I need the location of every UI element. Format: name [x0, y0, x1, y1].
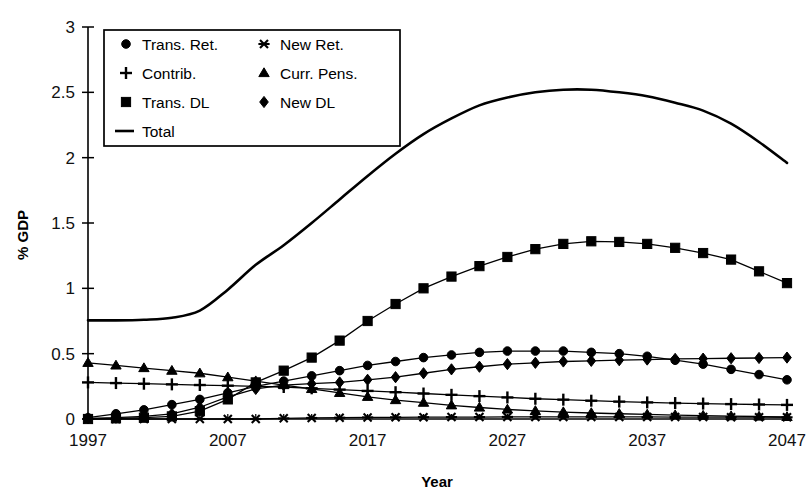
line-chart: 00.511.522.53199720072017202720372047 % …: [0, 0, 806, 498]
data-point-circle: [727, 365, 736, 374]
data-point-square: [503, 252, 512, 261]
data-point-circle: [122, 40, 131, 49]
data-point-square: [419, 284, 428, 293]
data-point-circle: [531, 347, 540, 356]
data-point-square: [363, 316, 372, 325]
y-axis-tick-label: 2: [66, 149, 75, 168]
data-point-circle: [447, 351, 456, 360]
data-point-square: [587, 237, 596, 246]
data-point-square: [391, 299, 400, 308]
legend-label: Curr. Pens.: [280, 65, 358, 82]
x-axis-tick-label: 2037: [628, 431, 666, 450]
y-axis-tick-label: 2.5: [51, 83, 75, 102]
data-point-circle: [475, 348, 484, 357]
x-axis-tick-label: 2007: [209, 431, 247, 450]
data-point-square: [447, 272, 456, 281]
y-axis-tick-label: 0: [66, 410, 75, 429]
x-axis-tick-label: 2027: [488, 431, 526, 450]
data-point-square: [615, 237, 624, 246]
x-axis-tick-label: 2047: [768, 431, 806, 450]
data-point-circle: [419, 353, 428, 362]
data-point-square: [726, 255, 735, 264]
legend-label: Trans. Ret.: [142, 36, 218, 53]
y-axis-tick-label: 0.5: [51, 345, 75, 364]
legend-label: Contrib.: [142, 65, 196, 82]
data-point-square: [335, 336, 344, 345]
data-point-circle: [503, 347, 512, 356]
data-point-square: [671, 243, 680, 252]
data-point-square: [699, 248, 708, 257]
data-point-square: [782, 279, 791, 288]
x-axis-tick-label: 1997: [69, 431, 107, 450]
data-point-square: [475, 262, 484, 271]
data-point-square: [754, 267, 763, 276]
data-point-circle: [755, 370, 764, 379]
data-point-square: [559, 239, 568, 248]
legend-label: Trans. DL: [142, 94, 210, 111]
y-axis-title: % GDP: [14, 210, 31, 260]
data-point-circle: [783, 376, 792, 385]
legend-label: Total: [142, 123, 175, 140]
legend-label: New DL: [280, 94, 336, 111]
data-point-square: [279, 366, 288, 375]
chart-container: 00.511.522.53199720072017202720372047 % …: [0, 0, 806, 498]
data-point-circle: [335, 366, 344, 375]
data-point-circle: [363, 361, 372, 370]
data-point-circle: [391, 357, 400, 366]
x-axis-tick-label: 2017: [349, 431, 387, 450]
data-point-square: [643, 239, 652, 248]
legend-label: New Ret.: [280, 36, 344, 53]
y-axis-tick-label: 3: [66, 18, 75, 37]
legend: Trans. Ret.New Ret.Contrib.Curr. Pens.Tr…: [104, 30, 400, 146]
data-point-square: [531, 245, 540, 254]
x-axis-title: Year: [421, 473, 453, 490]
data-point-square: [121, 97, 130, 106]
data-point-square: [307, 353, 316, 362]
data-point-circle: [559, 347, 568, 356]
y-axis-tick-label: 1: [66, 279, 75, 298]
y-axis-tick-label: 1.5: [51, 214, 75, 233]
